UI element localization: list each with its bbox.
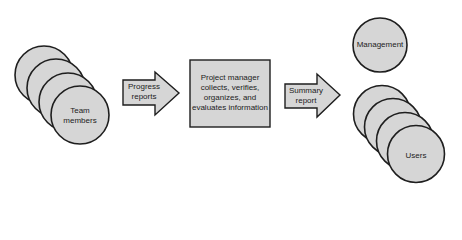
progress-reports-label-line1: Progress <box>124 82 164 92</box>
users-stack <box>354 86 445 183</box>
summary-report-label-line2: report <box>286 96 326 106</box>
team-members-label-line2: members <box>55 116 105 126</box>
management-label: Management <box>352 40 408 50</box>
team-members-stack <box>15 46 109 144</box>
project-manager-line: evaluates information <box>188 103 272 113</box>
progress-reports-label: Progress reports <box>124 82 164 102</box>
project-manager-line: Project manager <box>188 73 272 83</box>
summary-report-label: Summary report <box>286 86 326 106</box>
summary-report-label-line1: Summary <box>286 86 326 96</box>
users-label: Users <box>396 151 436 161</box>
project-manager-line: collects, verifies, <box>188 83 272 93</box>
team-members-label: Team members <box>55 106 105 126</box>
users-label-text: Users <box>396 151 436 161</box>
team-members-label-line1: Team <box>55 106 105 116</box>
management-label-text: Management <box>352 40 408 50</box>
progress-reports-label-line2: reports <box>124 92 164 102</box>
project-manager-label: Project manager collects, verifies, orga… <box>188 73 272 113</box>
project-manager-line: organizes, and <box>188 93 272 103</box>
